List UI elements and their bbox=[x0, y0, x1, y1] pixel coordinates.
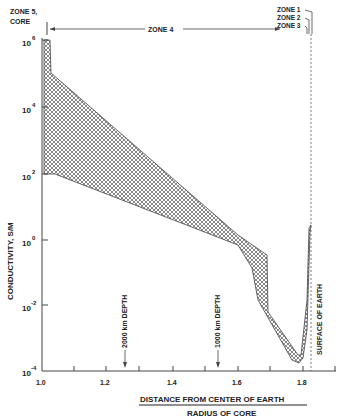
zone5-label: ZONE 5, bbox=[10, 8, 37, 16]
svg-text:1.8: 1.8 bbox=[297, 379, 307, 386]
zone1-label: ZONE 1 bbox=[277, 6, 301, 13]
svg-text:1.4: 1.4 bbox=[167, 379, 177, 386]
x-ticks bbox=[74, 366, 335, 371]
svg-text:2: 2 bbox=[32, 169, 36, 175]
conductivity-chart: 10 6 10 4 10 2 10 0 10 -2 10 -4 1.0 1.2 … bbox=[0, 0, 340, 420]
surface-label: SURFACE OF EARTH bbox=[316, 284, 323, 355]
x-axis-title-denominator: RADIUS OF CORE bbox=[187, 409, 257, 418]
svg-text:4: 4 bbox=[32, 102, 36, 108]
zone4-label: ZONE 4 bbox=[148, 26, 173, 33]
depth-1000-label: 1000 km DEPTH bbox=[214, 295, 221, 348]
svg-text:1.0: 1.0 bbox=[36, 379, 46, 386]
svg-text:10: 10 bbox=[22, 239, 31, 248]
y-tick-labels: 10 6 10 4 10 2 10 0 10 -2 10 -4 bbox=[22, 35, 37, 378]
y-axis-title: CONDUCTIVITY, S/M bbox=[6, 222, 15, 300]
svg-text:1.6: 1.6 bbox=[232, 379, 242, 386]
x-axis-title-numerator: DISTANCE FROM CENTER OF EARTH bbox=[140, 395, 285, 404]
x-tick-labels: 1.0 1.2 1.4 1.6 1.8 bbox=[36, 379, 307, 386]
svg-text:-2: -2 bbox=[31, 300, 37, 306]
svg-text:10: 10 bbox=[22, 39, 31, 48]
depth-2000-label: 2000 km DEPTH bbox=[121, 295, 128, 348]
svg-text:6: 6 bbox=[32, 35, 36, 41]
svg-text:-4: -4 bbox=[31, 365, 37, 371]
svg-text:1.2: 1.2 bbox=[100, 379, 110, 386]
zone5-sublabel: CORE bbox=[10, 18, 31, 25]
svg-text:10: 10 bbox=[22, 106, 31, 115]
svg-text:0: 0 bbox=[32, 235, 36, 241]
zone2-label: ZONE 2 bbox=[277, 14, 301, 21]
zone-brackets bbox=[305, 10, 312, 34]
conductivity-band bbox=[44, 40, 311, 363]
svg-text:10: 10 bbox=[22, 173, 31, 182]
zone3-label: ZONE 3 bbox=[277, 22, 301, 29]
